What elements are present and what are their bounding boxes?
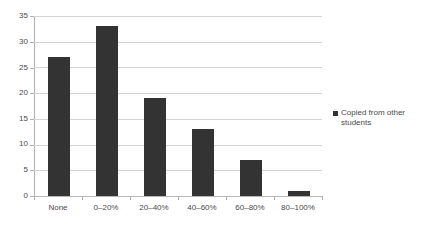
- x-axis-tick: [130, 196, 131, 200]
- y-axis-labels: 35 30 25 20 15 10 5 0: [0, 0, 28, 225]
- gridline: [34, 67, 322, 68]
- gridline: [34, 93, 322, 94]
- gridline: [34, 42, 322, 43]
- y-axis-tick-label: 0: [2, 192, 28, 200]
- x-axis-category-label: 0–20%: [82, 203, 130, 212]
- gridline: [34, 145, 322, 146]
- chart-legend[interactable]: Copied from other students: [333, 108, 425, 128]
- gridline: [34, 119, 322, 120]
- y-axis-tick-label: 35: [2, 12, 28, 20]
- x-axis-category-label: 60–80%: [226, 203, 274, 212]
- bar-60-80[interactable]: [240, 160, 262, 196]
- bar-0-20[interactable]: [96, 26, 118, 196]
- x-axis-tick: [274, 196, 275, 200]
- bar-20-40[interactable]: [144, 98, 166, 196]
- x-axis-tick: [34, 196, 35, 200]
- x-axis-category-label: 40–60%: [178, 203, 226, 212]
- y-axis-tick-label: 25: [2, 64, 28, 72]
- y-axis-tick-label: 15: [2, 115, 28, 123]
- x-axis-category-label: None: [34, 203, 82, 212]
- y-axis-tick-label: 30: [2, 38, 28, 46]
- legend-color-swatch-icon: [333, 111, 338, 116]
- plot-area: [34, 16, 322, 196]
- x-axis-tick: [82, 196, 83, 200]
- y-axis-tick-label: 5: [2, 166, 28, 174]
- bar-none[interactable]: [48, 57, 70, 196]
- y-axis-tick-label: 10: [2, 140, 28, 148]
- gridline: [34, 16, 322, 17]
- y-axis-tick-label: 20: [2, 89, 28, 97]
- x-axis-tick: [178, 196, 179, 200]
- legend-item-label: Copied from other students: [341, 108, 425, 128]
- x-axis-category-label: 20–40%: [130, 203, 178, 212]
- bar-chart: 35 30 25 20 15 10 5 0: [0, 0, 427, 225]
- gridline: [34, 170, 322, 171]
- x-axis-tick: [322, 196, 323, 200]
- bar-80-100[interactable]: [288, 191, 310, 196]
- x-axis-tick: [226, 196, 227, 200]
- x-axis-category-label: 80–100%: [274, 203, 322, 212]
- bar-40-60[interactable]: [192, 129, 214, 196]
